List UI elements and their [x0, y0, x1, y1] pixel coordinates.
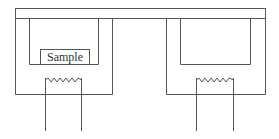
- right-heater-coil-icon: [197, 78, 234, 131]
- left-heater-coil-icon: [46, 78, 82, 131]
- sample-block: Sample: [41, 50, 90, 65]
- diagram-canvas: Sample: [0, 0, 279, 139]
- right-crucible: [181, 19, 251, 65]
- sample-label: Sample: [47, 50, 83, 64]
- top-plate: [16, 9, 266, 19]
